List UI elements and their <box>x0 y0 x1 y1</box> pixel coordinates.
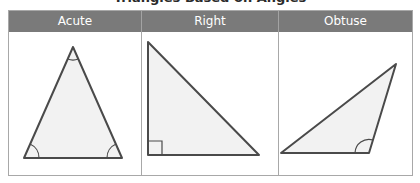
right-triangle-icon <box>142 32 279 175</box>
cell-acute <box>9 32 142 175</box>
acute-triangle-icon <box>9 32 142 175</box>
table-header: Acute Right Obtuse <box>9 11 412 32</box>
table-body <box>9 32 412 175</box>
triangle-types-table: Acute Right Obtuse <box>8 10 413 176</box>
header-right: Right <box>142 11 279 32</box>
diagram-title: Triangles Based on Angles <box>0 0 420 5</box>
cell-obtuse <box>279 32 412 175</box>
obtuse-triangle-icon <box>279 32 412 175</box>
header-acute: Acute <box>9 11 142 32</box>
cell-right <box>142 32 279 175</box>
header-obtuse: Obtuse <box>279 11 412 32</box>
